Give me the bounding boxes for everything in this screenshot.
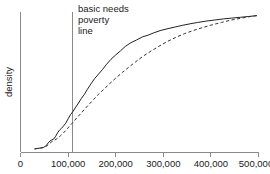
y-axis-title: density	[3, 67, 14, 97]
annotation-line-2: poverty	[78, 14, 109, 25]
annotation-line-1: basic needs	[78, 3, 129, 14]
solid-distribution-curve	[35, 16, 257, 149]
x-tick-label-2: 200,000	[99, 158, 133, 169]
annotation-line-3: line	[78, 25, 93, 36]
x-tick-label-4: 400,000	[194, 158, 228, 169]
x-axis-ticks	[21, 153, 259, 158]
chart-canvas: 0 100,000 200,000 300,000 400,000 500,00…	[0, 0, 270, 174]
x-tick-label-5: 500,000	[239, 158, 270, 169]
x-tick-label-3: 300,000	[146, 158, 180, 169]
x-tick-label-1: 100,000	[51, 158, 85, 169]
chart-figure: 0 100,000 200,000 300,000 400,000 500,00…	[0, 0, 270, 174]
x-tick-label-0: 0	[18, 158, 23, 169]
